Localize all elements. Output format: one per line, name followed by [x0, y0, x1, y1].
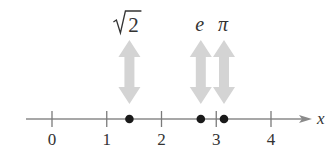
tick-label: 4	[267, 130, 276, 149]
point-e	[197, 115, 206, 124]
double-arrows-group	[118, 40, 235, 104]
point-label-sqrt2: 2	[113, 11, 141, 37]
tick-label: 3	[212, 130, 221, 149]
point-labels-group: 2eπ	[113, 11, 229, 37]
double-arrow-icon	[213, 40, 235, 104]
axis-label-x: x	[316, 109, 325, 128]
point-sqrt2	[125, 115, 134, 124]
number-line-diagram: x 01234 2eπ	[0, 0, 334, 156]
point-pi	[220, 115, 229, 124]
tick-label: 1	[103, 130, 112, 149]
tick-marks-group: 01234	[48, 111, 276, 149]
double-arrow-icon	[118, 40, 140, 104]
point-label-text: 2	[128, 13, 139, 37]
tick-label: 0	[48, 130, 57, 149]
double-arrow-icon	[190, 40, 212, 104]
tick-label: 2	[157, 130, 166, 149]
number-line-canvas: x 01234 2eπ	[0, 0, 334, 156]
point-label-e: e	[195, 13, 204, 35]
point-label-pi: π	[218, 13, 229, 35]
x-axis: x	[26, 109, 325, 128]
